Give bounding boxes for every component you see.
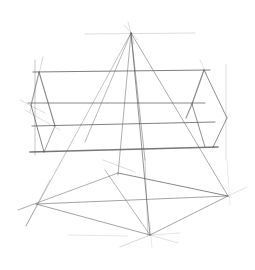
sketch-line xyxy=(85,33,131,142)
sketch-canvas xyxy=(0,0,255,270)
sketch-line xyxy=(18,173,118,210)
sketch-line xyxy=(25,110,60,130)
sketch-line xyxy=(31,105,44,152)
sketch-line xyxy=(30,147,218,152)
sketch-line xyxy=(227,160,230,205)
sketch-line xyxy=(228,187,247,196)
sketch-line xyxy=(131,33,150,235)
sketch-line xyxy=(131,33,145,160)
sketch-line xyxy=(30,57,43,112)
sketch-line xyxy=(150,235,178,243)
sketch-line xyxy=(33,70,210,72)
sketch-line xyxy=(118,173,228,196)
sketch-line xyxy=(36,196,228,204)
sketch-line xyxy=(204,70,227,118)
sketch-line xyxy=(44,126,55,152)
sketch-line xyxy=(26,180,50,226)
sketch-line xyxy=(150,196,228,235)
sketch-line xyxy=(192,70,204,104)
perspective-sketch xyxy=(0,0,255,270)
sketch-line xyxy=(186,104,192,118)
sketch-line xyxy=(32,122,215,126)
sketch-line xyxy=(39,72,55,126)
sketch-line xyxy=(85,33,195,34)
sketch-line xyxy=(36,204,150,235)
sketch-line xyxy=(118,33,131,175)
sketch-line xyxy=(192,104,205,147)
sketch-line xyxy=(105,170,150,235)
sketch-line xyxy=(150,233,180,235)
sketch-line xyxy=(68,235,128,236)
sketch-line xyxy=(145,160,148,236)
sketch-line xyxy=(128,22,134,44)
sketch-line xyxy=(120,235,150,247)
